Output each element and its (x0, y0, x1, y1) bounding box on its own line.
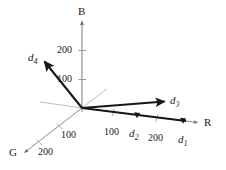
vector-line-d3[interactable] (82, 102, 165, 109)
tick-label-b-100: 100 (57, 74, 72, 84)
vector-line-d4[interactable] (45, 62, 83, 109)
vector-label-d3-base: d (170, 94, 176, 106)
vector-label-d3-sub: 3 (176, 100, 180, 109)
axis-label-b: B (78, 6, 85, 17)
vector-label-d2-base: d (129, 127, 135, 139)
tick-label-b-200: 200 (57, 45, 72, 55)
vector-label-d4: d4 (28, 52, 37, 63)
vector-label-d4-base: d (28, 51, 34, 63)
vector-diagram-svg (0, 0, 226, 170)
tick-label-g-100: 100 (61, 130, 76, 140)
tick-label-r-200: 200 (148, 133, 163, 143)
vector-label-d2: d2 (129, 128, 138, 139)
vector-label-d1-sub: 1 (184, 139, 188, 148)
horizontal-reference-line (40, 102, 82, 108)
vector-label-d2-sub: 2 (135, 133, 139, 142)
vector-label-d3: d3 (170, 95, 179, 106)
vector-group (45, 62, 187, 124)
tick-label-r-100: 100 (104, 127, 119, 137)
axis-line-g-extension (82, 89, 107, 108)
vector-label-d4-sub: 4 (34, 57, 38, 66)
axis-label-r: R (204, 117, 211, 128)
vector-label-d1-base: d (178, 133, 184, 145)
figure-canvas: B R G 200 100 100 200 100 200 d4 d3 d2 d… (0, 0, 226, 170)
tick-label-g-200: 200 (38, 147, 53, 157)
axis-label-g: G (9, 147, 17, 158)
vector-label-d1: d1 (178, 134, 187, 145)
vector-line-d1[interactable] (82, 108, 186, 121)
